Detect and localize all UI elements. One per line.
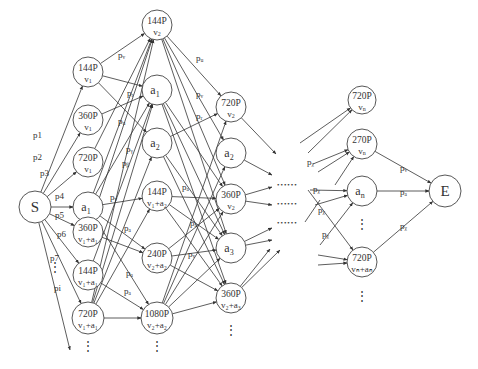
edge [241, 118, 276, 154]
edge [103, 76, 143, 86]
svg-text:144P: 144P [78, 266, 98, 276]
edge-label: p5 [55, 210, 65, 220]
node-c1_360v1: 360Pv1 [73, 105, 103, 135]
edge [313, 150, 348, 164]
nodes: SE144Pv1360Pv1720Pv1a1360Pv₁+a₁144Pv₁+a₁… [19, 10, 461, 334]
edge-label: p1 [33, 130, 42, 140]
edge [244, 160, 272, 175]
node-c3_a3: a3 [216, 233, 246, 263]
svg-text:v₂+a₂: v₂+a₂ [147, 320, 167, 330]
node-c1_144v1a1: 144Pv₁+a₁ [73, 260, 103, 290]
node-c3_a2: a2 [216, 138, 246, 168]
edge-label: pᵤ [118, 116, 126, 126]
state-transition-diagram: SE144Pv1360Pv1720Pv1a1360Pv₁+a₁144Pv₁+a₁… [0, 0, 478, 369]
edge-label: pₐ [124, 223, 132, 233]
edge [169, 258, 220, 307]
node-cn_720vn: 720Pvn [348, 86, 376, 114]
svg-text:v₂+a₂: v₂+a₂ [147, 260, 167, 270]
svg-text:E: E [440, 183, 449, 199]
edge-label: pₐ [126, 268, 134, 278]
vertical-ellipsis: ⋮ [225, 323, 237, 337]
svg-text:144P: 144P [78, 63, 98, 73]
edge-label: pₐ [124, 286, 132, 296]
edge [246, 201, 272, 205]
edge [101, 283, 144, 310]
edge [100, 216, 145, 249]
svg-text:360P: 360P [78, 223, 98, 233]
svg-text:v₁+a₁: v₁+a₁ [78, 277, 98, 287]
edge-label: pᵪ [313, 184, 321, 194]
vertical-ellipsis: ⋮ [356, 217, 368, 231]
vertical-ellipsis: ⋮ [82, 339, 94, 353]
edge-label: pᵦ [122, 158, 130, 168]
ellipsis-row: •••••• [277, 181, 298, 189]
svg-text:v₁+a₂: v₁+a₂ [147, 198, 167, 208]
edge-label: pᵥ [196, 89, 204, 99]
svg-text:720P: 720P [352, 253, 372, 263]
edge-label: pᵣ [196, 111, 203, 121]
svg-text:720P: 720P [352, 91, 372, 101]
edge [170, 265, 218, 291]
vertical-ellipsis: ⋮ [356, 289, 368, 303]
edge [308, 190, 353, 250]
node-c1_360v1a1: 360Pv₁+a₁ [73, 217, 103, 247]
edge [318, 152, 349, 172]
edge [300, 108, 350, 143]
node-c2_a2: a2 [142, 128, 172, 158]
edge [246, 240, 272, 245]
edge [167, 36, 221, 96]
edge [172, 197, 216, 199]
svg-text:720P: 720P [221, 98, 241, 108]
edge [172, 302, 216, 314]
edge [244, 228, 272, 241]
edge [308, 110, 352, 153]
node-c2_1080v2a2: 1080Pv₂+a₂ [141, 302, 173, 334]
svg-text:360P: 360P [221, 190, 241, 200]
svg-text:240P: 240P [147, 249, 167, 259]
svg-text:360P: 360P [221, 289, 241, 299]
node-cn_270vn: 270Pvn [347, 129, 377, 159]
edge-label: p3 [40, 168, 50, 178]
edge-label: pᵥ [188, 249, 196, 259]
edge [163, 104, 224, 235]
node-c2_240v2a2: 240Pv₂+a₂ [142, 243, 172, 273]
node-c2_144v1a2: 144Pv₁+a₂ [142, 181, 172, 211]
ellipsis-row: •••••• [277, 200, 298, 208]
edge [170, 114, 217, 137]
node-c3_720v2: 720Pv2 [216, 92, 246, 122]
svg-text:270P: 270P [352, 135, 372, 145]
node-c1_720v1: 720Pv1 [73, 147, 103, 177]
node-cn_an: an [347, 176, 377, 206]
edge-label: pᵪ [318, 205, 326, 215]
node-c2_a1: a1 [142, 75, 172, 105]
edge-label: pᵥ [118, 50, 126, 60]
edge-label: p6 [57, 229, 67, 239]
edge-label: pᵪ [307, 157, 315, 167]
svg-text:v₁+a₁: v₁+a₁ [78, 320, 98, 330]
edge-label: pᵪ [322, 229, 330, 239]
node-c1_720v1a1: 720Pv₁+a₁ [72, 302, 104, 334]
vertical-ellipsis: ⋮ [151, 339, 163, 353]
edge-label: p4 [55, 191, 65, 201]
source-node-s: S [19, 191, 51, 223]
edge-label: pₐ [400, 187, 408, 197]
edge [96, 209, 150, 304]
svg-text:S: S [31, 199, 39, 215]
edge [245, 187, 272, 195]
edge-label: p2 [33, 152, 42, 162]
vertical-ellipsis: ⋮ [49, 260, 61, 274]
ellipsis-row: •••••• [277, 219, 298, 227]
node-cn_720vnan: 720Pvₙ+aₙ [347, 247, 377, 277]
svg-text:1080P: 1080P [145, 309, 169, 319]
edge-label: pᵪ [400, 221, 408, 231]
node-c3_360v2: 360Pv2 [216, 184, 246, 214]
edge-label: pᵥ [110, 192, 118, 202]
svg-text:720P: 720P [78, 309, 98, 319]
edge-label: pᵤ [196, 53, 204, 63]
node-c2_144v2: 144Pv2 [142, 10, 172, 40]
edge-label: pᵥ [400, 163, 408, 173]
svg-text:720P: 720P [78, 153, 98, 163]
edge [162, 39, 227, 234]
end-node-e: E [429, 175, 461, 207]
svg-text:144P: 144P [147, 187, 167, 197]
